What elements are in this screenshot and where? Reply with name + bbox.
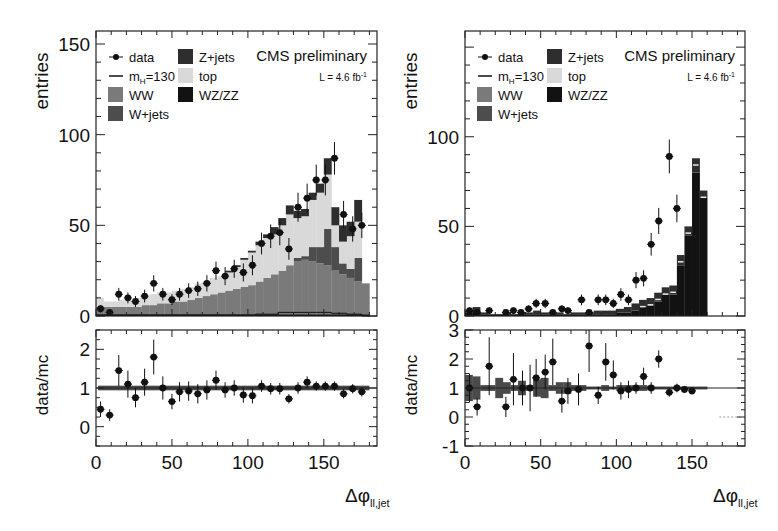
ratio-y-tick-label: -1 bbox=[442, 436, 459, 457]
data-point bbox=[124, 294, 131, 301]
data-point bbox=[486, 307, 493, 314]
ratio-y-tick-label: 1 bbox=[448, 378, 459, 399]
histogram-bar-w-jets bbox=[309, 247, 317, 262]
data-point bbox=[258, 240, 265, 247]
histogram-bar-z-jets bbox=[354, 200, 362, 222]
histogram-bar-ww bbox=[218, 292, 226, 314]
ratio-y-axis-label: data/mc bbox=[402, 354, 421, 415]
data-point bbox=[666, 153, 673, 160]
ratio-point bbox=[267, 385, 274, 392]
mc-uncertainty-marker bbox=[655, 299, 661, 301]
histogram-bar-ww bbox=[225, 291, 233, 315]
legend-label-higgs: mH=130 bbox=[498, 69, 544, 86]
histogram-bar-z-jets bbox=[556, 312, 564, 314]
mc-uncertainty-marker bbox=[685, 232, 691, 234]
ratio-point bbox=[586, 343, 593, 350]
histogram-bar-ww bbox=[126, 307, 134, 314]
right-ratio-plot: -10123data/mc050100150Δφll,jet bbox=[402, 320, 758, 509]
ratio-point bbox=[533, 374, 540, 381]
ratio-point bbox=[602, 359, 609, 366]
ratio-point bbox=[648, 385, 655, 392]
histogram-bar-ww bbox=[316, 263, 324, 314]
ratio-point bbox=[340, 390, 347, 397]
x-tick-label: 50 bbox=[161, 452, 182, 473]
data-point bbox=[474, 309, 481, 316]
ratio-point bbox=[322, 383, 329, 390]
ratio-point bbox=[159, 385, 166, 392]
histogram-bar-ww bbox=[278, 271, 286, 315]
legend-label-higgs: mH=130 bbox=[129, 69, 175, 86]
legend-label-data: data bbox=[498, 50, 524, 65]
ratio-point bbox=[625, 386, 632, 393]
legend-swatch-wz-zz bbox=[547, 87, 562, 102]
y-tick-label: 50 bbox=[69, 215, 90, 236]
ratio-point bbox=[349, 385, 356, 392]
data-point bbox=[578, 296, 585, 303]
histogram-bar-top bbox=[210, 278, 218, 294]
histogram-bar-wz-zz bbox=[639, 307, 647, 316]
histogram-bar-w-jets bbox=[293, 258, 301, 262]
x-tick-label: 100 bbox=[600, 452, 632, 473]
legend-label-top: top bbox=[199, 69, 217, 84]
legend-swatch-z-jets bbox=[178, 49, 193, 64]
histogram-bar-ww bbox=[233, 289, 241, 314]
x-tick-label: 100 bbox=[232, 452, 264, 473]
histogram-bar-ww bbox=[164, 303, 172, 314]
histogram-bar-z-jets bbox=[541, 312, 549, 314]
data-point bbox=[633, 277, 640, 284]
cms-preliminary-label: CMS preliminary bbox=[624, 47, 735, 64]
ratio-y-axis-label: data/mc bbox=[33, 354, 52, 415]
histogram-bar-ww bbox=[187, 300, 195, 315]
ratio-y-tick-label: 0 bbox=[448, 407, 459, 428]
left-ratio-plot: 012data/mc050100150Δφll,jet bbox=[33, 330, 390, 509]
data-point bbox=[97, 305, 104, 312]
legend-label-ww: WW bbox=[129, 88, 154, 103]
data-point bbox=[542, 300, 549, 307]
data-point bbox=[231, 265, 238, 272]
legend-swatch-z-jets bbox=[547, 49, 562, 64]
histogram-bar-top bbox=[331, 225, 339, 247]
ratio-point bbox=[313, 383, 320, 390]
legend-swatch-ww bbox=[108, 87, 123, 102]
ratio-y-tick-label: 0 bbox=[79, 417, 90, 438]
ratio-point bbox=[194, 390, 201, 397]
ratio-point bbox=[549, 359, 556, 366]
histogram-bar-w-jets bbox=[331, 247, 339, 271]
histogram-bar-z-jets bbox=[669, 286, 677, 295]
ratio-y-tick-label: 2 bbox=[79, 339, 90, 360]
data-point bbox=[276, 229, 283, 236]
histogram-bar-ww bbox=[248, 285, 256, 314]
histogram-bar-ww bbox=[240, 287, 248, 314]
ratio-y-tick-label: 2 bbox=[448, 349, 459, 370]
histogram-bar-wz-zz bbox=[692, 173, 700, 316]
histogram-bar-ww bbox=[210, 294, 218, 314]
ratio-point bbox=[141, 379, 148, 386]
histogram-bar-top bbox=[104, 301, 112, 306]
data-point bbox=[358, 222, 365, 229]
data-point bbox=[625, 296, 632, 303]
legend-label-top: top bbox=[568, 69, 586, 84]
ratio-point bbox=[240, 392, 247, 399]
x-tick-label: 0 bbox=[460, 452, 471, 473]
legend-swatch-w-jets bbox=[108, 106, 123, 121]
ratio-point bbox=[249, 392, 256, 399]
data-point bbox=[115, 291, 122, 298]
data-point bbox=[340, 211, 347, 218]
ratio-point bbox=[527, 385, 534, 392]
ratio-point bbox=[276, 385, 283, 392]
legend-label-z-jets: Z+jets bbox=[199, 50, 235, 65]
histogram-bar-ww bbox=[309, 262, 317, 315]
histogram-bar-w-jets bbox=[324, 229, 332, 265]
data-point bbox=[159, 291, 166, 298]
ratio-point bbox=[222, 387, 229, 394]
data-point bbox=[295, 204, 302, 211]
data-point bbox=[331, 155, 338, 162]
x-tick-label: 50 bbox=[530, 452, 551, 473]
histogram-bar-wz-zz bbox=[700, 198, 708, 316]
ratio-point bbox=[486, 363, 493, 370]
data-point bbox=[525, 305, 532, 312]
histogram-bar-top bbox=[255, 245, 263, 281]
data-point bbox=[194, 285, 201, 292]
legend-label-w-jets: W+jets bbox=[129, 107, 170, 122]
data-point bbox=[213, 267, 220, 274]
